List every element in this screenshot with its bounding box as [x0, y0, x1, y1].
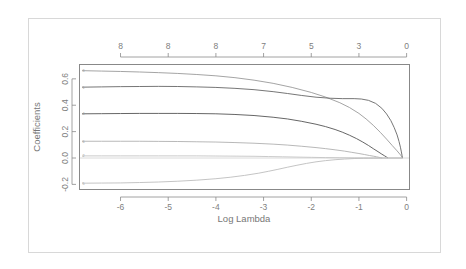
- x-axis-title: Log Lambda: [218, 213, 272, 224]
- y-axis-tick-label: 0.4: [60, 99, 70, 111]
- x-axis-tick-label: -2: [307, 202, 315, 212]
- series-edge-label-v6: 5: [83, 182, 85, 186]
- top-axis-tick-label: 3: [357, 41, 362, 51]
- series-edge-labels: 314625: [83, 69, 85, 186]
- top-axis-tick-label: 8: [166, 41, 171, 51]
- plot-frame: [80, 65, 410, 190]
- y-axis-tick-label: 0.2: [60, 125, 70, 137]
- x-axis-tick-label: -1: [355, 202, 363, 212]
- y-axis-tick-label: -0.2: [60, 177, 70, 192]
- coefficient-path-v6: [82, 158, 402, 183]
- top-axis-tick-label: 0: [404, 41, 409, 51]
- coefficient-path-chart: 314625 -6-5-4-3-2-10 0.60.40.20.0-0.2 88…: [0, 0, 466, 269]
- top-axis-tick-label: 8: [118, 41, 123, 51]
- figure-page: 314625 -6-5-4-3-2-10 0.60.40.20.0-0.2 88…: [0, 0, 466, 269]
- coefficient-path-v1: [82, 71, 402, 158]
- series-edge-label-v3: 4: [83, 112, 85, 116]
- y-axis-title: Coefficients: [31, 102, 42, 152]
- series-edge-label-v5: 2: [83, 154, 85, 158]
- y-axis-tick-label: 0.0: [60, 152, 70, 164]
- series-edge-label-v2: 1: [83, 86, 85, 90]
- y-axis: 0.60.40.20.0-0.2: [60, 73, 76, 192]
- x-axis-tick-label: -6: [117, 202, 125, 212]
- top-axis-nonzero-counts: 8887530: [118, 41, 409, 57]
- top-axis-tick-label: 5: [309, 41, 314, 51]
- x-axis-tick-label: -3: [260, 202, 268, 212]
- top-axis-tick-label: 7: [261, 41, 266, 51]
- series-edge-label-v1: 3: [83, 69, 85, 73]
- series-edge-label-v4: 6: [83, 140, 85, 144]
- coefficient-curves: [82, 71, 402, 184]
- x-axis-tick-label: 0: [404, 202, 409, 212]
- x-axis: -6-5-4-3-2-10: [117, 197, 410, 212]
- top-axis-tick-label: 8: [214, 41, 219, 51]
- coefficient-path-v2: [82, 86, 402, 157]
- x-axis-tick-label: -4: [212, 202, 220, 212]
- x-axis-tick-label: -5: [164, 202, 172, 212]
- y-axis-tick-label: 0.6: [60, 73, 70, 85]
